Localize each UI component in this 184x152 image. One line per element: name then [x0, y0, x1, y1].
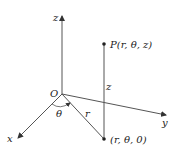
point-P-label: P(r, θ, z) — [109, 39, 152, 50]
height-label: z — [105, 81, 112, 92]
x-axis-label: x — [7, 133, 13, 144]
z-axis-label: z — [52, 12, 59, 23]
point-P — [102, 42, 106, 46]
theta-arc — [52, 103, 70, 107]
origin-label: O — [50, 88, 58, 99]
y-axis — [62, 94, 166, 115]
radius-label: r — [85, 108, 91, 119]
point-projection-label: (r, θ, 0) — [110, 134, 147, 145]
theta-label: θ — [56, 108, 62, 119]
point-projection — [102, 137, 106, 141]
y-axis-label: y — [161, 117, 168, 128]
cylindrical-coordinates-diagram: z y x O r z θ P(r, θ, z) (r, θ, 0) — [0, 0, 184, 152]
